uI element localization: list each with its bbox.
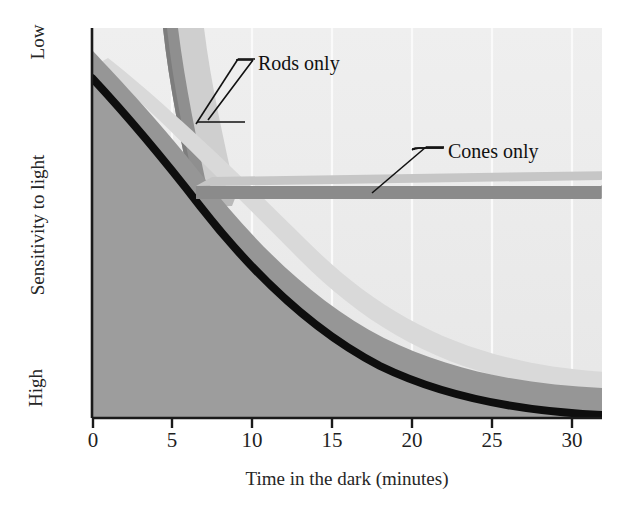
y-axis-label-high: High	[25, 348, 47, 428]
y-axis-title: Sensitivity to light	[27, 125, 49, 325]
y-axis-label-low: Low	[27, 2, 49, 82]
x-axis-ticks	[93, 418, 572, 428]
x-tick-label-10: 10	[229, 428, 275, 453]
annotation-rods-only: Rods only	[258, 52, 340, 75]
x-tick-label-15: 15	[309, 428, 355, 453]
annotation-cones-only: Cones only	[448, 140, 539, 163]
x-tick-label-0: 0	[70, 428, 116, 453]
x-tick-label-30: 30	[549, 428, 595, 453]
x-axis-title: Time in the dark (minutes)	[92, 468, 602, 490]
x-tick-label-5: 5	[149, 428, 195, 453]
x-tick-label-20: 20	[389, 428, 435, 453]
x-tick-label-25: 25	[469, 428, 515, 453]
dark-adaptation-chart: Low High Sensitivity to light Time in th…	[0, 0, 630, 513]
